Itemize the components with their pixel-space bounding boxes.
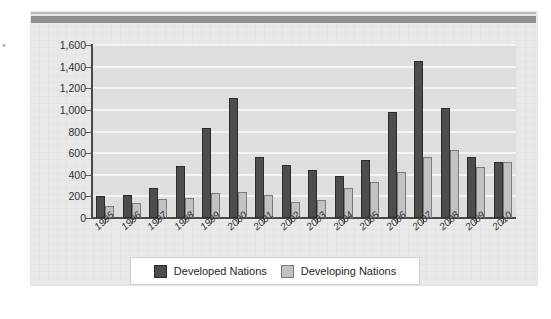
bar-developed-nations-2003[interactable] [308, 170, 317, 218]
x-axis-label-cell: 1995 [92, 221, 119, 267]
bar-group [225, 45, 252, 218]
y-axis-tick-label: 600 [40, 147, 86, 159]
bar-developed-nations-2005[interactable] [361, 160, 370, 218]
bar-developed-nations-1999[interactable] [202, 128, 211, 218]
legend-swatch-light [281, 265, 294, 278]
bar-group [119, 45, 146, 218]
bar-developed-nations-2010[interactable] [494, 162, 503, 218]
y-axis-tick-mark [85, 110, 91, 111]
bar-developed-nations-2007[interactable] [414, 61, 423, 218]
page-header-band [31, 16, 536, 23]
x-axis-label-cell: 2009 [463, 221, 490, 267]
bar-developed-nations-2006[interactable] [388, 112, 397, 218]
bar-group [463, 45, 490, 218]
bar-group [357, 45, 384, 218]
bar-groups [92, 45, 516, 218]
y-axis-tick-label: 0 [40, 212, 86, 224]
bar-group [92, 45, 119, 218]
bar-developed-nations-2008[interactable] [441, 108, 450, 218]
y-axis-tick-mark [85, 196, 91, 197]
legend-item-developing[interactable]: Developing Nations [281, 265, 396, 278]
y-axis-tick-label: 400 [40, 169, 86, 181]
bar-developed-nations-2000[interactable] [229, 98, 238, 218]
chart-legend: Developed NationsDeveloping Nations [130, 257, 420, 285]
y-axis-tick-label: 200 [40, 190, 86, 202]
x-axis-label-cell: 2008 [437, 221, 464, 267]
y-axis-tick-mark [85, 67, 91, 68]
page-top-rule [31, 12, 536, 14]
scanned-page: • 1,6001,4001,2001,0008006004002000 1995… [0, 0, 551, 319]
y-axis-tick-mark [85, 175, 91, 176]
legend-label-developed: Developed Nations [174, 265, 267, 277]
y-axis-tick-labels: 1,6001,4001,2001,0008006004002000 [30, 25, 86, 225]
left-margin-mark-icon: • [2, 41, 11, 50]
bar-group [410, 45, 437, 218]
bar-group [331, 45, 358, 218]
bar-developed-nations-2004[interactable] [335, 176, 344, 218]
bar-group [437, 45, 464, 218]
legend-swatch-dark [154, 265, 167, 278]
y-axis-tick-label: 1,400 [40, 61, 86, 73]
y-axis-tick-mark [85, 153, 91, 154]
bar-group [172, 45, 199, 218]
bar-group [384, 45, 411, 218]
y-axis-tick-mark [85, 88, 91, 89]
bar-group [490, 45, 517, 218]
legend-label-developing: Developing Nations [301, 265, 396, 277]
bar-developing-nations-2008[interactable] [450, 150, 459, 218]
bar-group [278, 45, 305, 218]
y-axis-tick-mark [85, 45, 91, 46]
x-axis-label-cell: 2010 [490, 221, 517, 267]
bar-developing-nations-2007[interactable] [423, 157, 432, 218]
bar-developed-nations-2002[interactable] [282, 165, 291, 218]
y-axis-tick-label: 1,200 [40, 82, 86, 94]
bar-group [304, 45, 331, 218]
bar-group [251, 45, 278, 218]
y-axis-tick-label: 1,000 [40, 104, 86, 116]
legend-item-developed[interactable]: Developed Nations [154, 265, 267, 278]
bar-group [198, 45, 225, 218]
y-axis-tick-mark [85, 218, 91, 219]
bar-developed-nations-2009[interactable] [467, 157, 476, 218]
y-axis-tick-label: 800 [40, 126, 86, 138]
bar-chart: 1,6001,4001,2001,0008006004002000 199519… [30, 25, 538, 286]
bar-developed-nations-1998[interactable] [176, 166, 185, 218]
bar-developed-nations-2001[interactable] [255, 157, 264, 218]
y-axis-tick-label: 1,600 [40, 39, 86, 51]
y-axis-tick-mark [85, 132, 91, 133]
bar-group [145, 45, 172, 218]
